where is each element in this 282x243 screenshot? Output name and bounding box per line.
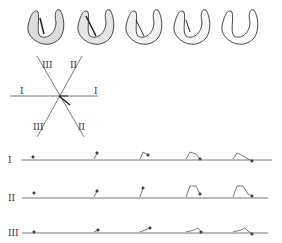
lead-traces bbox=[22, 152, 272, 235]
heart-sections bbox=[28, 10, 258, 45]
lead-I-right-label: I bbox=[94, 86, 98, 96]
lead-I-left-label: I bbox=[20, 86, 24, 96]
lead-III-top-label: II bbox=[70, 60, 78, 70]
heart-stage-5 bbox=[222, 10, 258, 45]
heart-stage-4 bbox=[174, 10, 210, 45]
heart-stage-1 bbox=[28, 10, 64, 45]
lead-II-top-label: III bbox=[42, 60, 53, 70]
trace-label-II: II bbox=[8, 193, 16, 203]
trace-label-I: I bbox=[8, 155, 12, 165]
heart-stage-3 bbox=[126, 10, 162, 45]
lead-III-bottom-label: III bbox=[33, 122, 44, 132]
trace-label-III: III bbox=[8, 228, 19, 238]
heart-stage-2 bbox=[78, 10, 114, 45]
ecg-vector-diagram: I I III II III II I II III bbox=[0, 0, 282, 243]
lead-II-bottom-label: II bbox=[78, 122, 86, 132]
